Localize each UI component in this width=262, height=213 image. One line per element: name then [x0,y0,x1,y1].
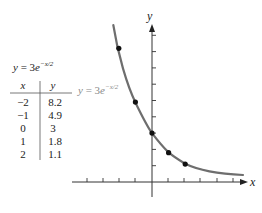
data-point [149,131,154,136]
data-point [166,150,171,155]
data-point [116,46,121,51]
x-axis [72,178,248,185]
y-axis-ticks [152,35,156,165]
x-axis-arrow-icon [240,179,248,185]
curve-label-exponent: −x/2 [105,83,118,91]
curve-label: y = 3e−x/2 [78,83,118,96]
data-point [133,100,138,105]
y-axis-arrow-icon [149,24,155,32]
y-axis-label: y [147,9,152,24]
graph-canvas [0,0,262,213]
curve-label-eq: = 3 [83,84,100,96]
exponential-curve [113,25,243,175]
x-axis-ticks [87,178,233,182]
y-axis [149,24,156,197]
data-point [183,162,188,167]
x-axis-label: x [250,175,255,190]
